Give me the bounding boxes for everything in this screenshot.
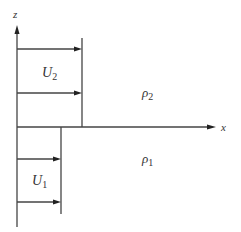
x-axis-arrowhead-icon bbox=[207, 125, 216, 130]
x-axis-label: x bbox=[220, 121, 226, 133]
upper-density-label: ρ2 bbox=[141, 85, 153, 102]
z-axis-label: z bbox=[12, 8, 18, 20]
lower-arrowhead-icon bbox=[53, 157, 61, 162]
lower-arrowhead-icon bbox=[53, 200, 61, 205]
upper-density-subscript: 2 bbox=[148, 91, 153, 102]
lower-density-label: ρ1 bbox=[141, 151, 153, 168]
z-axis-arrowhead-icon bbox=[15, 25, 20, 34]
upper-density-symbol: ρ bbox=[141, 85, 148, 100]
lower-density-subscript: 1 bbox=[148, 157, 153, 168]
upper-velocity-subscript: 2 bbox=[52, 71, 57, 82]
lower-density-symbol: ρ bbox=[141, 151, 148, 166]
lower-velocity-subscript: 1 bbox=[42, 179, 47, 190]
lower-velocity-label: U1 bbox=[32, 173, 47, 190]
upper-arrowhead-icon bbox=[74, 47, 82, 52]
upper-velocity-label: U2 bbox=[42, 65, 57, 82]
upper-arrowhead-icon bbox=[74, 91, 82, 96]
diagram-canvas: z x U2 U1 ρ2 ρ1 bbox=[0, 0, 241, 232]
